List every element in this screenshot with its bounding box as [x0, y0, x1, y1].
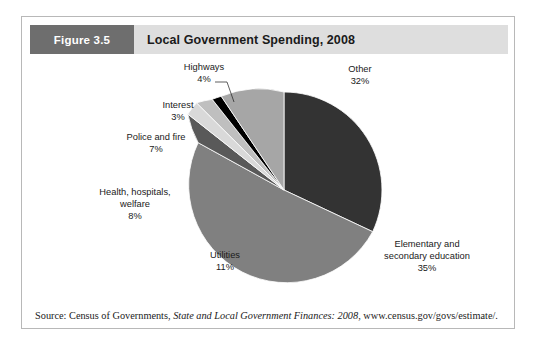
source-note: Source: Census of Governments, State and…: [35, 309, 501, 324]
figure-frame: Figure 3.5 Local Government Spending, 20…: [21, 16, 515, 329]
label-interest: Interest: [162, 100, 193, 110]
pie-chart-svg: Other 32% Elementary and secondary educa…: [22, 55, 514, 307]
figure-number-tab: Figure 3.5: [30, 25, 134, 54]
pie-chart: Other 32% Elementary and secondary educa…: [22, 55, 514, 307]
label-police-and-fire-percent: 7%: [149, 144, 162, 154]
source-suffix: , www.census.gov/govs/estimate/.: [358, 310, 498, 321]
source-publication-title: State and Local Government Finances: 200…: [173, 310, 358, 321]
label-utilities: Utilities: [210, 250, 240, 260]
label-health-hospitals-welfare-line1: Health, hospitals,: [99, 187, 170, 197]
label-elementary-secondary-education-line1: Elementary and: [394, 239, 459, 249]
source-prefix: Source: Census of Governments,: [35, 310, 173, 321]
label-elementary-secondary-education-line2: secondary education: [384, 251, 470, 261]
label-utilities-percent: 11%: [216, 262, 234, 272]
figure-title: Local Government Spending, 2008: [134, 25, 508, 54]
label-other: Other: [348, 64, 371, 74]
label-interest-percent: 3%: [171, 112, 184, 122]
label-health-hospitals-welfare-line2: welfare: [119, 199, 150, 209]
label-highways: Highways: [184, 62, 225, 72]
label-health-hospitals-welfare-percent: 8%: [128, 211, 141, 221]
figure-header: Figure 3.5 Local Government Spending, 20…: [30, 25, 508, 54]
label-other-percent: 32%: [351, 76, 370, 86]
label-police-and-fire: Police and fire: [127, 132, 186, 142]
label-elementary-secondary-education-percent: 35%: [418, 263, 437, 273]
label-highways-percent: 4%: [197, 74, 210, 84]
